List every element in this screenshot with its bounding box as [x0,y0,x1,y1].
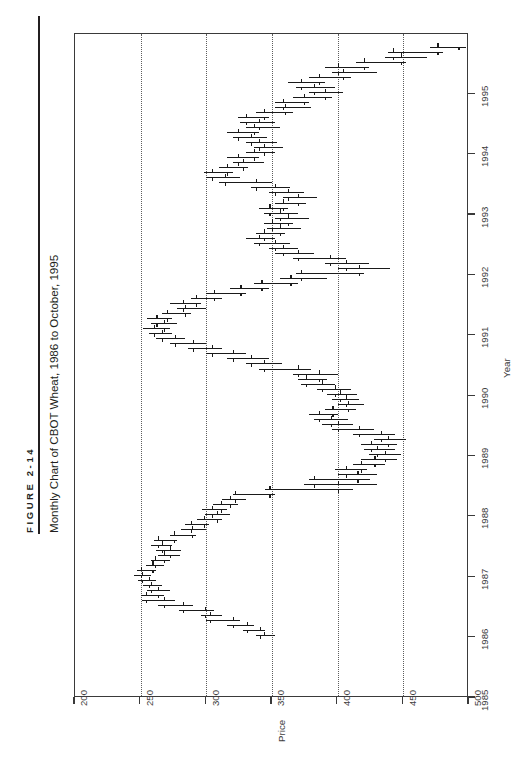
ohlc-open-tick [288,214,289,217]
ohlc-close-tick [152,570,153,573]
ohlc-open-tick [238,154,239,157]
ohlc-open-tick [259,139,260,142]
ohlc-close-tick [338,429,339,432]
ohlc-open-tick [343,69,344,72]
ohlc-close-tick [193,348,194,351]
ohlc-close-tick [298,258,299,261]
ohlc-open-tick [364,58,365,61]
ohlc-bar [149,333,173,334]
ohlc-open-tick [283,245,284,248]
ohlc-open-tick [221,501,222,504]
ohlc-open-tick [340,390,341,393]
ohlc-close-tick [437,52,438,55]
ohlc-bar [246,238,275,239]
ohlc-open-tick [338,481,339,484]
ohlc-open-tick [155,556,156,559]
ohlc-close-tick [290,283,291,286]
ohlc-close-tick [235,499,236,502]
ohlc-open-tick [304,94,305,97]
ohlc-bar [246,152,275,153]
ohlc-close-tick [205,615,206,618]
year-tick-mark [468,395,475,396]
ohlc-open-tick [314,476,315,479]
ohlc-close-tick [264,369,265,372]
ohlc-open-tick [141,567,142,570]
ohlc-bar [374,439,406,440]
ohlc-close-tick [283,253,284,256]
ohlc-close-tick [283,208,284,211]
ohlc-bar [202,509,227,510]
ohlc-open-tick [264,360,265,363]
ohlc-bar [141,595,165,596]
ohlc-close-tick [269,213,270,216]
ohlc-open-tick [240,285,241,288]
ohlc-bar [181,529,206,530]
price-tick-label: 350 [275,690,286,706]
ohlc-open-tick [170,546,171,549]
ohlc-open-tick [164,597,165,600]
ohlc-open-tick [290,275,291,278]
ohlc-open-tick [374,456,375,459]
ohlc-bar [325,263,370,264]
ohlc-bar [158,605,193,606]
year-tick-label: 1995 [479,86,490,107]
ohlc-close-tick [214,298,215,301]
ohlc-open-tick [217,511,218,514]
ohlc-close-tick [217,519,218,522]
ohlc-bar [206,620,240,621]
ohlc-close-tick [340,399,341,402]
ohlc-close-tick [338,489,339,492]
ohlc-close-tick [240,293,241,296]
ohlc-close-tick [251,142,252,145]
ohlc-open-tick [167,310,168,313]
ohlc-bar [361,444,396,445]
ohlc-close-tick [319,82,320,85]
ohlc-close-tick [233,625,234,628]
ohlc-close-tick [260,635,261,638]
year-tick-label: 1985 [479,689,490,710]
ohlc-close-tick [371,449,372,452]
ohlc-close-tick [191,529,192,532]
ohlc-bar [353,464,385,465]
ohlc-open-tick [275,240,276,243]
ohlc-close-tick [343,77,344,80]
ohlc-open-tick [192,526,193,529]
ohlc-close-tick [306,384,307,387]
year-tick-label: 1994 [479,146,490,167]
ohlc-bar [298,379,327,380]
ohlc-close-tick [346,268,347,271]
ohlc-open-tick [238,129,239,132]
ohlc-close-tick [288,197,289,200]
ohlc-open-tick [283,199,284,202]
ohlc-open-tick [251,134,252,137]
ohlc-close-tick [264,238,265,241]
ohlc-close-tick [230,504,231,507]
ohlc-close-tick [162,550,163,553]
price-tick-mark [270,697,271,704]
price-tick-label: 300 [210,690,221,706]
ohlc-open-tick [275,184,276,187]
ohlc-open-tick [338,63,339,66]
ohlc-open-tick [264,229,265,232]
ohlc-bar [219,182,272,183]
ohlc-close-tick [304,102,305,105]
figure-caption-block: FIGURE 2-14 Monthly Chart of CBOT Wheat,… [24,14,68,534]
ohlc-open-tick [235,491,236,494]
year-axis-title: Year [501,358,512,378]
ohlc-close-tick [280,233,281,236]
ohlc-open-tick [377,446,378,449]
ohlc-close-tick [238,162,239,165]
ohlc-open-tick [191,521,192,524]
ohlc-open-tick [280,224,281,227]
ohlc-close-tick [298,374,299,377]
ohlc-open-tick [388,436,389,439]
ohlc-open-tick [269,204,270,207]
ohlc-close-tick [162,338,163,341]
ohlc-open-tick [156,315,157,318]
ohlc-close-tick [401,62,402,65]
year-tick-label: 1989 [479,448,490,469]
ohlc-open-tick [264,632,265,635]
ohlc-close-tick [256,187,257,190]
ohlc-bar [143,585,161,586]
ohlc-open-tick [319,74,320,77]
